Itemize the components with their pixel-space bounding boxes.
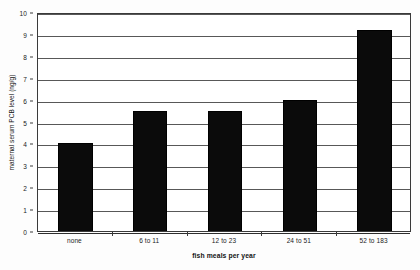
y-tick-mark-0 [30, 232, 33, 233]
y-tick-mark-9 [30, 34, 33, 35]
y-tick-label-7: 7 [23, 75, 27, 82]
bar [283, 100, 317, 231]
x-tick-label: none [67, 237, 82, 244]
y-tick-label-1: 1 [23, 207, 27, 214]
y-tick-label-6: 6 [23, 97, 27, 104]
y-tick-mark-5 [30, 122, 33, 123]
gridline-7 [38, 80, 410, 81]
x-tick-label: 24 to 51 [287, 237, 311, 244]
gridline-6 [38, 102, 410, 103]
y-tick-mark-7 [30, 78, 33, 79]
x-tick-mark [336, 232, 337, 236]
y-tick-label-8: 8 [23, 53, 27, 60]
y-tick-label-0: 0 [23, 229, 27, 236]
x-tick-mark [261, 232, 262, 236]
bar [58, 143, 92, 231]
gridline-8 [38, 58, 410, 59]
y-tick-mark-6 [30, 100, 33, 101]
y-tick-mark-8 [30, 56, 33, 57]
y-tick-mark-2 [30, 188, 33, 189]
x-tick-mark [112, 232, 113, 236]
bar [357, 30, 391, 231]
gridline-10 [38, 14, 410, 15]
y-tick-label-2: 2 [23, 185, 27, 192]
y-tick-mark-3 [30, 166, 33, 167]
x-axis-title: fish meals per year [37, 252, 411, 259]
plot-area [37, 13, 411, 232]
y-tick-label-9: 9 [23, 31, 27, 38]
x-axis-tick-labels: none6 to 1112 to 2324 to 5152 to 183 [37, 237, 411, 249]
x-tick-label: 12 to 23 [212, 237, 236, 244]
gridline-9 [38, 36, 410, 37]
x-tick-label: 6 to 11 [139, 237, 159, 244]
bar [208, 111, 242, 231]
y-axis-tick-labels: 012345678910 [0, 13, 33, 232]
bar [133, 111, 167, 231]
y-tick-mark-4 [30, 144, 33, 145]
y-tick-mark-1 [30, 210, 33, 211]
y-tick-label-3: 3 [23, 163, 27, 170]
y-tick-label-5: 5 [23, 119, 27, 126]
x-tick-mark [187, 232, 188, 236]
x-axis-tick-marks [37, 232, 411, 236]
y-tick-label-4: 4 [23, 141, 27, 148]
y-tick-mark-10 [30, 13, 33, 14]
bar-chart-figure: maternal serum PCB level (ng/g) 01234567… [0, 0, 420, 270]
x-tick-label: 52 to 183 [360, 237, 388, 244]
y-tick-label-10: 10 [20, 10, 27, 17]
